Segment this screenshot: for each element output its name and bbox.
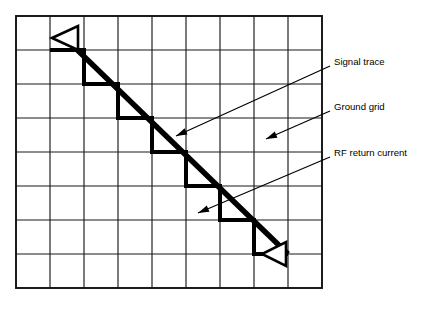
start-arrowhead-icon: [52, 26, 78, 50]
leader-line-signal-trace: [176, 66, 330, 136]
leader-arrowhead-ground-grid: [266, 131, 277, 139]
end-arrowhead-icon: [262, 242, 286, 266]
leader-arrowhead-rf-return-current: [198, 206, 209, 213]
callout-label-signal-trace: Signal trace: [334, 56, 385, 67]
callout-label-ground-grid: Ground grid: [334, 101, 385, 112]
callout-label-rf-return-current: RF return current: [334, 147, 407, 158]
signal-trace-ground-grid-figure: Signal trace Ground grid RF return curre…: [0, 0, 432, 322]
diagram-root: Signal trace Ground grid RF return curre…: [0, 0, 432, 322]
signal-trace-conductor: [66, 39, 288, 254]
callout-signal-trace: Signal trace: [176, 56, 385, 136]
callout-ground-grid: Ground grid: [266, 101, 385, 139]
callout-rf-return-current: RF return current: [198, 147, 407, 213]
